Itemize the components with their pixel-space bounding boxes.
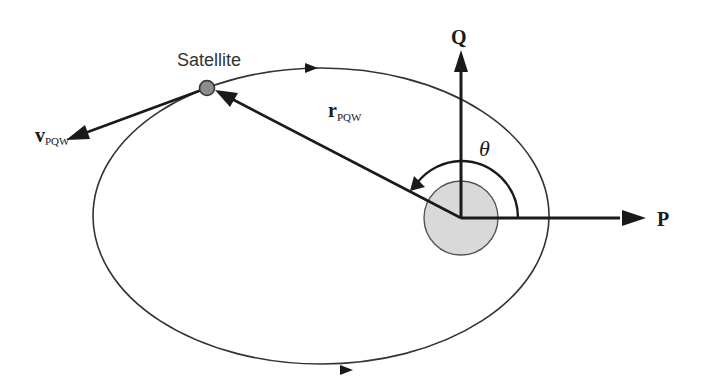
orbit-direction-arrow-bottom [340, 365, 353, 375]
position-vector-arrowhead [215, 90, 238, 107]
true-anomaly-label: θ [479, 136, 490, 161]
position-label: rPQW [328, 99, 362, 123]
position-label-main: r [328, 99, 337, 121]
satellite-label: Satellite [177, 50, 241, 70]
p-axis-label: P [657, 208, 669, 230]
position-label-subscript: PQW [337, 111, 362, 123]
q-axis-arrowhead [454, 50, 468, 72]
velocity-label-subscript: PQW [45, 135, 70, 147]
orbit-diagram: Satellite vPQW rPQW Q P θ [0, 0, 707, 386]
velocity-vector-arrow [85, 88, 207, 133]
satellite-icon [200, 81, 215, 96]
p-axis-arrowhead [622, 210, 646, 226]
velocity-vector-arrowhead [66, 125, 90, 140]
orbit-direction-arrow-top [305, 63, 318, 73]
velocity-label: vPQW [35, 124, 70, 147]
q-axis-label: Q [451, 26, 467, 48]
velocity-label-main: v [35, 124, 45, 146]
